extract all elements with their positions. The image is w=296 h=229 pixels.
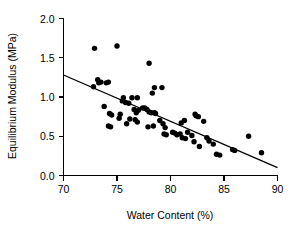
x-axis-tick-label: 90 — [272, 183, 284, 195]
data-point-series — [91, 43, 264, 158]
chart-figure: 7075808590 0.00.51.01.52.0 Water Content… — [0, 0, 296, 229]
data-point — [183, 136, 188, 141]
data-point — [246, 134, 251, 139]
data-point — [159, 85, 164, 90]
x-axis-title: Water Content (%) — [127, 209, 214, 221]
data-point — [191, 139, 196, 144]
data-point — [114, 43, 119, 48]
data-point — [152, 85, 157, 90]
data-point — [98, 79, 103, 84]
data-point — [146, 61, 151, 66]
data-point — [182, 118, 187, 123]
data-point — [197, 144, 202, 149]
data-point — [145, 124, 150, 129]
y-axis-ticks — [59, 19, 64, 176]
data-point — [217, 152, 222, 157]
data-point — [162, 125, 167, 130]
data-point — [118, 112, 123, 117]
x-axis-tick-label: 75 — [111, 183, 123, 195]
data-point — [201, 119, 206, 124]
data-point — [124, 121, 129, 126]
data-point — [109, 112, 114, 117]
y-axis-tick-labels: 0.00.51.01.52.0 — [40, 13, 55, 182]
data-point — [129, 95, 134, 100]
y-axis-title: Equilibrium Modulus (MPa) — [6, 33, 18, 159]
data-point — [151, 123, 156, 128]
data-point — [164, 132, 169, 137]
y-axis-tick-label: 0.0 — [40, 170, 55, 182]
x-axis-tick-labels: 7075808590 — [58, 183, 284, 195]
data-point — [196, 114, 201, 119]
data-point — [185, 130, 190, 135]
data-point — [211, 141, 216, 146]
data-point — [106, 79, 111, 84]
data-point — [259, 150, 264, 155]
y-axis-tick-label: 0.5 — [40, 130, 55, 142]
data-point — [92, 46, 97, 51]
data-point — [135, 95, 140, 100]
x-axis-ticks — [64, 176, 278, 181]
data-point — [189, 133, 194, 138]
y-axis-tick-label: 1.5 — [40, 52, 55, 64]
regression-line — [64, 75, 278, 168]
x-axis-tick-label: 80 — [165, 183, 177, 195]
data-point — [108, 124, 113, 129]
y-axis-tick-label: 2.0 — [40, 13, 55, 25]
scatter-plot: 7075808590 0.00.51.01.52.0 Water Content… — [0, 0, 296, 229]
x-axis-tick-label: 70 — [58, 183, 70, 195]
data-point — [127, 116, 132, 121]
data-point — [101, 104, 106, 109]
x-axis-tick-label: 85 — [218, 183, 230, 195]
data-point — [150, 90, 155, 95]
axes — [64, 19, 278, 176]
data-point — [135, 119, 140, 124]
y-axis-tick-label: 1.0 — [40, 91, 55, 103]
